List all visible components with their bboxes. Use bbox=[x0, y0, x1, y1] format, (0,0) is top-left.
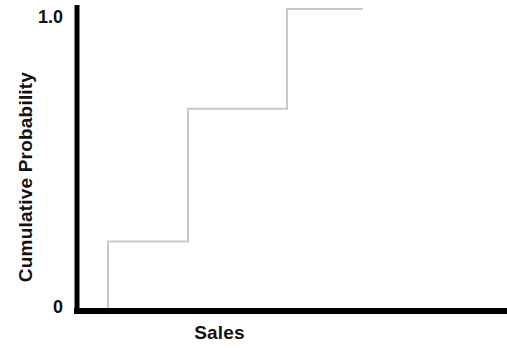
y-axis-tick-label-max: 1.0 bbox=[38, 8, 63, 26]
x-axis-title-wrap: Sales bbox=[0, 322, 507, 344]
ecdf-step-plot bbox=[0, 0, 507, 348]
chart-figure: 1.0 0 Cumulative Probability Sales bbox=[0, 0, 507, 348]
y-axis-tick-label-min: 0 bbox=[53, 298, 63, 316]
y-axis-title: Cumulative Probability bbox=[15, 45, 37, 309]
x-axis-title: Sales bbox=[194, 322, 245, 344]
